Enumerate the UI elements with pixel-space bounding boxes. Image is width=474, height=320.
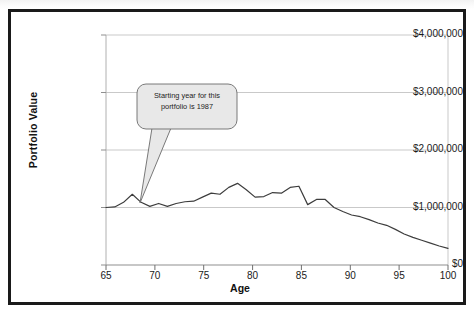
- chart-screenshot: Starting year for this portfolio is 1987…: [0, 0, 474, 320]
- callout-bubble: [137, 84, 237, 129]
- x-tick-label: 75: [184, 270, 224, 281]
- y-tick-label: $3,000,000: [377, 86, 463, 97]
- x-tick-label: 95: [379, 270, 419, 281]
- y-tick-label: $2,000,000: [377, 143, 463, 154]
- x-tick-label: 90: [330, 270, 370, 281]
- x-tick-label: 100: [428, 270, 468, 281]
- portfolio-value-line: [106, 183, 448, 248]
- x-tick-label: 70: [135, 270, 175, 281]
- x-tick-label: 80: [233, 270, 273, 281]
- x-axis-title: Age: [11, 282, 469, 294]
- scan-artifact: [0, 0, 474, 9]
- y-tick-label: $0: [377, 258, 463, 269]
- callout-tail: [140, 128, 171, 203]
- x-tick-label: 65: [86, 270, 126, 281]
- y-tick-label: $4,000,000: [377, 28, 463, 39]
- y-axis-ticks: [101, 35, 106, 265]
- x-tick-label: 85: [281, 270, 321, 281]
- y-tick-label: $1,000,000: [377, 201, 463, 212]
- y-axis-title: Portfolio Value: [27, 70, 39, 190]
- starting-year-callout: [137, 84, 237, 203]
- chart-frame: Starting year for this portfolio is 1987…: [8, 9, 466, 305]
